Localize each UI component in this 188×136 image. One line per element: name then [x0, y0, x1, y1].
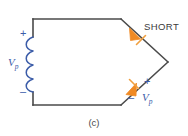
- diode-voltage-symbol: V: [142, 91, 149, 103]
- circuit-figure: SHORT + Vp – + – Vp (c): [0, 0, 188, 136]
- diode-voltage-label: Vp: [142, 92, 152, 106]
- diode-voltage-subscript: p: [149, 97, 153, 106]
- short-label: SHORT: [144, 22, 179, 32]
- diode-plus-sign: +: [144, 76, 150, 87]
- figure-caption: (c): [0, 118, 188, 128]
- source-minus-sign: –: [20, 86, 26, 97]
- source-voltage-subscript: p: [15, 62, 19, 71]
- source-voltage-symbol: V: [8, 56, 15, 68]
- inductor-coil: [26, 37, 33, 92]
- diode-minus-sign: –: [128, 92, 134, 103]
- source-voltage-label: Vp: [8, 57, 18, 71]
- source-plus-sign: +: [20, 28, 26, 39]
